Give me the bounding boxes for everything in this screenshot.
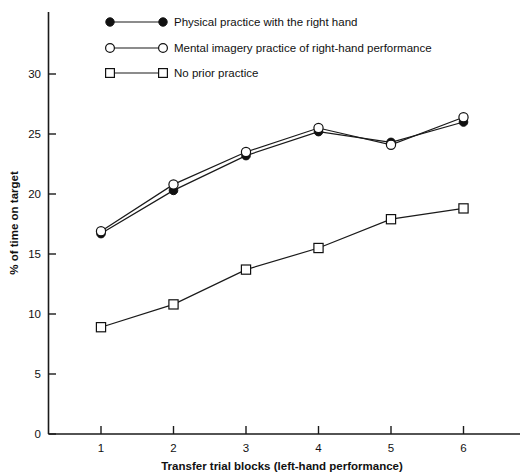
- y-tick-label-10: 10: [28, 308, 41, 320]
- legend-label-mental-imagery: Mental imagery practice of right-hand pe…: [174, 42, 432, 54]
- series-line-no-prior-practice: [101, 208, 464, 327]
- data-point-open-circle: [96, 227, 105, 236]
- data-point-open-circle: [386, 140, 395, 149]
- x-tick-label-5: 5: [388, 442, 394, 454]
- data-series-layer: [96, 113, 468, 332]
- legend-marker-filled-circle-end: [159, 18, 167, 26]
- data-point-open-circle: [241, 147, 250, 156]
- x-tick-label-3: 3: [243, 442, 249, 454]
- data-point-open-square: [169, 300, 178, 309]
- legend-label-no-prior-practice: No prior practice: [174, 67, 258, 79]
- legend-item-physical-practice: Physical practice with the right hand: [106, 16, 358, 28]
- x-tick-label-1: 1: [98, 442, 104, 454]
- x-tick-label-2: 2: [170, 442, 176, 454]
- x-tick-group: 1 2 3 4 5 6: [98, 426, 467, 454]
- legend-item-mental-imagery: Mental imagery practice of right-hand pe…: [106, 42, 432, 54]
- series-no-prior-practice: [96, 204, 468, 332]
- series-physical-practice-with-the-right-hand: [97, 118, 468, 238]
- legend-label-physical-practice: Physical practice with the right hand: [174, 16, 357, 28]
- y-tick-group: 0 5 10 15 20 25 30: [28, 68, 56, 440]
- legend-marker-filled-circle: [106, 18, 114, 26]
- x-tick-label-4: 4: [315, 442, 322, 454]
- legend-marker-open-square: [106, 69, 115, 78]
- data-point-open-square: [459, 204, 468, 213]
- legend-marker-open-circle: [106, 44, 115, 53]
- data-point-open-circle: [459, 113, 468, 122]
- y-axis-title: % of time on target: [8, 171, 20, 275]
- y-tick-label-25: 25: [28, 128, 41, 140]
- data-point-open-circle: [169, 180, 178, 189]
- legend-marker-open-circle-end: [159, 44, 168, 53]
- series-line-mental-imagery-practice-of-right-hand-performance: [101, 117, 464, 231]
- y-tick-label-0: 0: [35, 428, 41, 440]
- y-tick-label-20: 20: [28, 188, 41, 200]
- data-point-open-square: [96, 323, 105, 332]
- data-point-open-square: [241, 265, 250, 274]
- y-tick-label-30: 30: [28, 68, 41, 80]
- line-chart-canvas: 0 5 10 15 20 25 30 1 2 3 4 5 6 % of time…: [0, 0, 530, 474]
- legend-item-no-prior-practice: No prior practice: [106, 67, 259, 79]
- legend: Physical practice with the right hand Me…: [106, 16, 432, 79]
- x-tick-label-6: 6: [460, 442, 466, 454]
- data-point-open-circle: [314, 123, 323, 132]
- data-point-open-square: [314, 243, 323, 252]
- legend-marker-open-square-end: [159, 69, 168, 78]
- chart-figure: 0 5 10 15 20 25 30 1 2 3 4 5 6 % of time…: [0, 0, 530, 474]
- y-tick-label-5: 5: [35, 368, 41, 380]
- series-mental-imagery-practice-of-right-hand-performance: [96, 113, 468, 236]
- x-axis-title: Transfer trial blocks (left-hand perform…: [161, 460, 403, 472]
- data-point-open-square: [386, 215, 395, 224]
- y-tick-label-15: 15: [28, 248, 41, 260]
